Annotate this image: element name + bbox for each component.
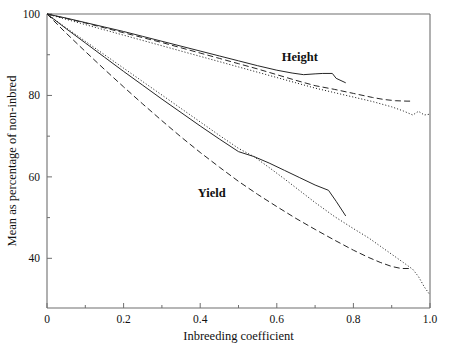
y-axis-title: Mean as percentage of non-inbred (5, 75, 19, 247)
x-tick-label: 0.6 (270, 313, 285, 325)
line-chart-figure: 00.20.40.60.81.0 406080100 HeightYield I… (0, 0, 449, 357)
y-tick-label: 40 (29, 252, 41, 264)
series-label-height: Height (282, 50, 319, 64)
figure-background (0, 0, 449, 357)
x-tick-label: 0 (44, 313, 50, 325)
x-tick-label: 1.0 (423, 313, 438, 325)
x-tick-label: 0.4 (193, 313, 208, 325)
x-tick-label: 0.8 (346, 313, 361, 325)
x-axis-title: Inbreeding coefficient (183, 329, 294, 343)
x-tick-label: 0.2 (116, 313, 131, 325)
y-tick-label: 60 (29, 171, 41, 183)
series-label-yield: Yield (198, 186, 226, 200)
y-tick-label: 100 (23, 8, 41, 20)
chart-container: 00.20.40.60.81.0 406080100 HeightYield I… (0, 0, 449, 357)
y-tick-label: 80 (29, 89, 41, 101)
